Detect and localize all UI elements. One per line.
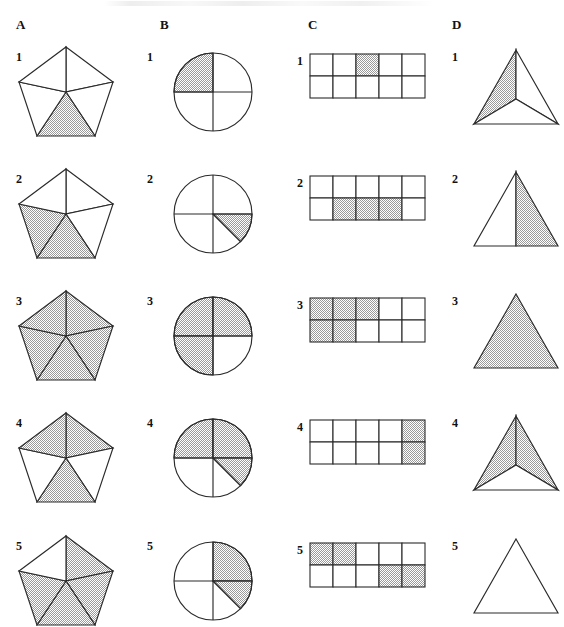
grid-cell-shaded [402,420,425,442]
row-label-b-3: 3 [147,295,153,307]
grid-cell [333,442,356,464]
grid-cell [379,442,402,464]
figure-a-2 [14,166,118,262]
triangle-half-right [516,172,558,246]
grid-cell [356,320,379,342]
grid-cell [333,176,356,198]
row-label-d-4: 4 [452,417,458,429]
grid-cell [356,442,379,464]
figure-c-1 [308,44,412,140]
column-header-c: C [308,18,318,31]
grid-cell-shaded [333,543,356,565]
circle-eighth-lower-right-upper [213,214,252,242]
figure-a-4 [14,410,118,506]
grid-cell [379,298,402,320]
grid-cell [356,543,379,565]
triangle-whole-empty [474,539,558,613]
figure-c-3 [308,288,412,384]
grid-cell [356,420,379,442]
figure-b-4 [161,410,265,506]
column-header-a: A [16,18,26,31]
row-label-d-1: 1 [452,51,458,63]
scan-artifact-strip [104,1,434,6]
grid-cell [310,442,333,464]
grid-cell [310,54,333,76]
figure-b-3 [161,288,265,384]
grid-cell-shaded [402,442,425,464]
grid-cell-shaded [356,198,379,220]
grid-cell [379,420,402,442]
grid-cell [356,76,379,98]
row-label-b-5: 5 [147,540,153,552]
grid-cell [402,198,425,220]
grid-cell [379,76,402,98]
grid-cell-shaded [333,320,356,342]
grid-cell [310,176,333,198]
grid-cell-shaded [402,565,425,587]
figure-b-1 [161,44,265,140]
row-label-c-5: 5 [297,544,303,556]
grid-cell [402,320,425,342]
row-label-c-2: 2 [297,177,303,189]
grid-cell [310,420,333,442]
grid-cell-shaded [379,198,402,220]
grid-cell-shaded [356,298,379,320]
grid-cell-shaded [310,543,333,565]
grid-cell [402,543,425,565]
row-label-c-3: 3 [297,299,303,311]
grid-cell [379,54,402,76]
grid-cell-shaded [333,298,356,320]
row-label-b-1: 1 [147,51,153,63]
figure-d-5 [466,533,564,627]
grid-cell-shaded [310,320,333,342]
row-label-d-3: 3 [452,295,458,307]
grid-cell [356,176,379,198]
grid-cell [402,76,425,98]
grid-cell-shaded [333,198,356,220]
figure-d-4 [466,410,564,506]
circle-eighth-lower-right-upper [213,581,252,609]
grid-cell [402,176,425,198]
triangle-half-left [474,172,516,246]
grid-cell [379,176,402,198]
grid-cell [310,198,333,220]
figure-d-3 [466,288,564,384]
row-label-b-4: 4 [147,417,153,429]
grid-cell [310,565,333,587]
grid-cell-shaded [356,54,379,76]
figure-a-5 [14,533,118,627]
grid-cell [379,543,402,565]
grid-cell [333,565,356,587]
column-header-b: B [160,18,169,31]
grid-cell [379,320,402,342]
row-label-c-1: 1 [297,55,303,67]
row-label-d-2: 2 [452,173,458,185]
figure-b-2 [161,166,265,262]
column-header-d: D [452,18,462,31]
row-label-b-2: 2 [147,173,153,185]
grid-cell-shaded [310,298,333,320]
figure-c-2 [308,166,412,262]
circle-eighth-lower-right-upper [213,458,252,486]
figure-d-2 [466,166,564,262]
grid-cell [333,54,356,76]
figure-b-5 [161,533,265,627]
grid-cell [356,565,379,587]
figure-a-3 [14,288,118,384]
figure-c-4 [308,410,412,506]
grid-cell [333,76,356,98]
row-label-c-4: 4 [297,421,303,433]
figure-a-1 [14,44,118,140]
grid-cell [333,420,356,442]
grid-cell [310,76,333,98]
grid-cell [402,54,425,76]
row-label-d-5: 5 [452,540,458,552]
grid-cell [402,298,425,320]
grid-cell-shaded [379,565,402,587]
figure-c-5 [308,533,412,627]
figure-d-1 [466,44,564,140]
triangle-whole-shaded [474,294,558,368]
